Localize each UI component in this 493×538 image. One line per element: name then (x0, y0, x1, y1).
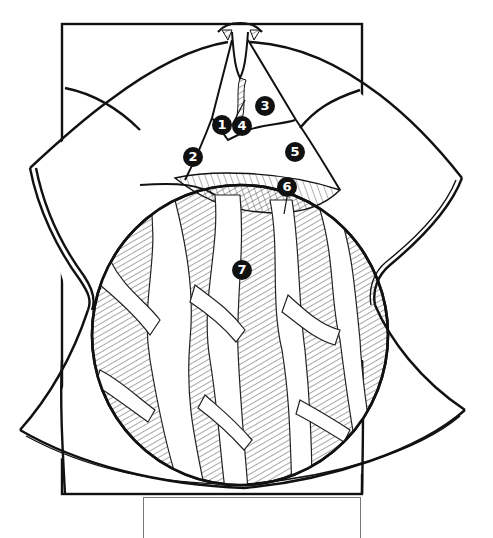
callout-6: 6 (277, 177, 297, 197)
callout-4: 4 (232, 116, 252, 136)
callout-2: 2 (183, 147, 203, 167)
callout-1: 1 (212, 115, 232, 135)
callout-7: 7 (232, 260, 252, 280)
callout-5: 5 (285, 142, 305, 162)
label-box (143, 497, 361, 538)
callout-3: 3 (255, 96, 275, 116)
